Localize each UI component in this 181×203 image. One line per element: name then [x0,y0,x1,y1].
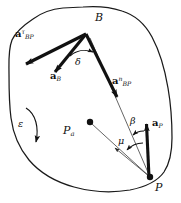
vector-label-a-b-sub: B [56,75,61,82]
vector-label-a-bp-tau-sub: BP [25,33,34,40]
thin-line-p-to-mu-direction [115,148,150,177]
vector-a-bp-n [86,34,117,97]
vector-label-a-bp-n-sub: BP [122,80,131,87]
angular-acceleration-label-epsilon: ε [18,119,23,129]
angle-label-delta: δ [75,57,81,67]
angle-label-beta: β [130,116,136,126]
point-label-P: P [155,182,162,193]
vector-label-a-b: aB [50,71,61,82]
angle-arc-beta [133,131,144,135]
vector-a-b [55,34,86,72]
angle-label-mu: μ [118,136,124,146]
point-label-Pa-sub: a [70,130,74,138]
rigid-body-acceleration-figure: B P Pa aτBP aB anBP aP δ β μ ε [0,0,181,203]
point-dot-p [147,174,153,180]
point-label-B: B [95,12,103,23]
point-dot-pa [87,119,93,125]
thin-line-p-to-pa [92,124,150,177]
vector-label-a-bp-tau: aτBP [15,29,34,40]
vector-label-a-p-sub: P [158,122,162,129]
angle-arc-mu [127,143,143,150]
vector-label-a-p: aP [152,118,163,129]
point-label-Pa: Pa [63,125,74,138]
epsilon-curved-arrow [26,108,37,142]
vector-label-a-bp-n: anBP [112,76,131,87]
